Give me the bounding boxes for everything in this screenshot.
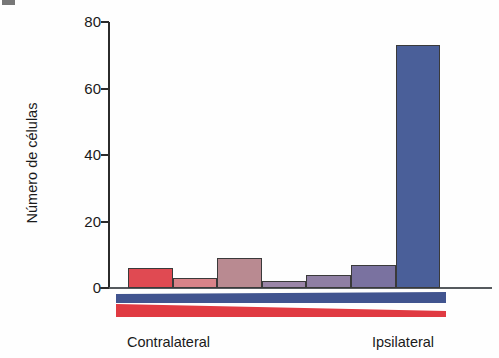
bar [217, 258, 262, 288]
bar [262, 281, 307, 288]
bar [351, 265, 396, 288]
bar [173, 278, 218, 288]
ipsilateral-label: Ipsilateral [372, 334, 434, 350]
contralateral-label: Contralateral [127, 334, 210, 350]
gradient-wedges-svg [116, 292, 446, 318]
bar [396, 45, 441, 288]
contralateral-wedge [116, 304, 446, 317]
bar-chart-figure: 020406080 Número de células Contralatera… [0, 0, 499, 358]
ipsilateral-wedge [116, 292, 446, 303]
bar [128, 268, 173, 288]
bar [306, 275, 351, 288]
gradient-wedges [116, 292, 446, 318]
